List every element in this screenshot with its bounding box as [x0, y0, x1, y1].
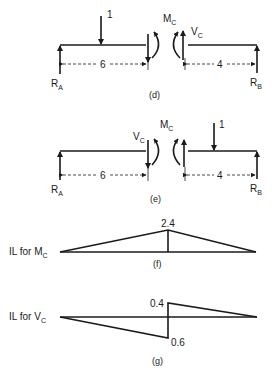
dim-label-6: 6	[100, 170, 106, 181]
moment-label: MC	[160, 119, 173, 132]
caption-f: (f)	[153, 259, 162, 269]
moment-clockwise-arc	[152, 139, 159, 165]
dim-label-4: 4	[217, 170, 223, 181]
panel-d-free-body: 1 RA MC VC RB 6 4 (d)	[51, 9, 262, 100]
reaction-a-label: RA	[51, 184, 63, 197]
dim-label-4: 4	[217, 59, 223, 70]
shear-label: VC	[191, 26, 203, 39]
influence-line-diagram: 1 RA MC VC RB 6 4 (d) RA VC MC	[0, 0, 276, 381]
panel-g-influence-line-shear: IL for VC 0.4 0.6 (g)	[9, 298, 257, 366]
il-vc-positive-value: 0.4	[150, 298, 164, 309]
panel-e-free-body: RA VC MC 1 RB 6 4 (e)	[51, 119, 262, 204]
moment-clockwise-arc	[152, 32, 159, 58]
shear-label: VC	[133, 131, 145, 144]
caption-d: (d)	[149, 90, 160, 100]
il-vc-title: IL for VC	[9, 311, 46, 324]
dim-label-6: 6	[100, 59, 106, 70]
reaction-b-label: RB	[250, 77, 262, 90]
reaction-a-label: RA	[51, 78, 63, 91]
panel-f-influence-line-moment: IL for MC 2.4 (f)	[9, 218, 256, 269]
moment-counterclockwise-arc	[173, 32, 180, 58]
caption-e: (e)	[150, 194, 161, 204]
il-mc-peak-value: 2.4	[161, 218, 175, 229]
il-mc-curve	[60, 230, 256, 252]
unit-load-label: 1	[107, 9, 113, 20]
reaction-b-label: RB	[250, 183, 262, 196]
moment-counterclockwise-arc	[173, 139, 180, 165]
caption-g: (g)	[152, 356, 163, 366]
il-mc-title: IL for MC	[9, 246, 48, 259]
il-vc-negative-value: 0.6	[171, 337, 185, 348]
moment-label: MC	[163, 13, 176, 26]
unit-load-label: 1	[219, 119, 225, 130]
